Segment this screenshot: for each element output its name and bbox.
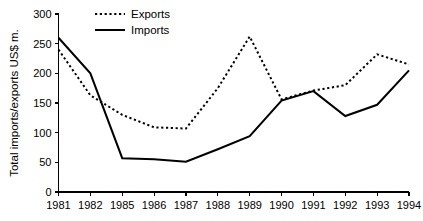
- line-chart: 050100150200250300 198119821985198619871…: [0, 0, 423, 221]
- x-tick-label: 1989: [237, 199, 261, 211]
- y-tick-label: 0: [45, 186, 51, 198]
- legend-label-imports: Imports: [131, 24, 170, 36]
- x-tick-label: 1986: [142, 199, 166, 211]
- y-tick-label: 100: [33, 127, 51, 139]
- y-tick-label: 250: [33, 38, 51, 50]
- x-tick-label: 1990: [269, 199, 293, 211]
- y-tick-label: 300: [33, 8, 51, 20]
- series-layer: [59, 37, 410, 162]
- y-tick-label: 150: [33, 97, 51, 109]
- y-tick-label: 200: [33, 67, 51, 79]
- x-tick-label: 1987: [174, 199, 198, 211]
- x-tick-label: 1992: [333, 199, 357, 211]
- y-axis-title: Total imports/exports US$ m.: [8, 29, 20, 177]
- x-tick-label: 1985: [110, 199, 134, 211]
- series-line-imports: [59, 38, 410, 162]
- y-axis: 050100150200250300: [33, 8, 58, 198]
- x-tick-label: 1981: [46, 199, 70, 211]
- x-tick-label: 1994: [397, 199, 421, 211]
- x-tick-label: 1988: [206, 199, 230, 211]
- x-tick-label: 1991: [301, 199, 325, 211]
- chart-container: 050100150200250300 198119821985198619871…: [0, 0, 423, 221]
- series-line-exports: [59, 37, 410, 129]
- x-axis: 1981198219851986198719881989199019911992…: [46, 192, 421, 211]
- y-tick-label: 50: [39, 156, 51, 168]
- x-tick-label: 1993: [365, 199, 389, 211]
- legend-label-exports: Exports: [131, 8, 170, 20]
- x-tick-label: 1982: [78, 199, 102, 211]
- chart-legend: ExportsImports: [95, 8, 170, 36]
- y-axis-title-text: Total imports/exports US$ m.: [8, 29, 20, 177]
